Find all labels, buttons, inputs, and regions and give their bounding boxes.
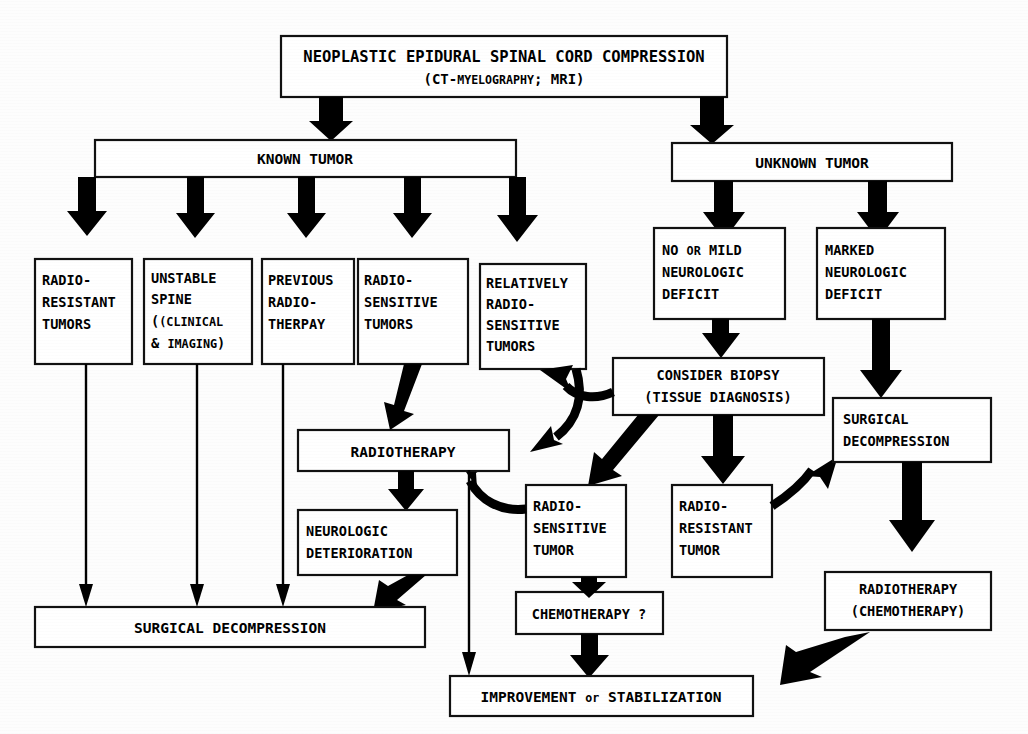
arrow-root-to-known [309, 97, 353, 141]
mid-sens-line1: RADIO- [533, 498, 582, 514]
box4-line1: RADIO- [364, 272, 413, 288]
box3-line3: THERPAY [268, 316, 326, 332]
arrow-biopsy-to-mid-sensitive [588, 415, 659, 486]
radiotherapy-label: RADIOTHERAPY [351, 444, 456, 460]
flowchart-page: NEOPLASTIC EPIDURAL SPINAL CORD COMPRESS… [0, 0, 1028, 734]
arrow-marked-to-surgical [860, 319, 902, 398]
flowchart-canvas: NEOPLASTIC EPIDURAL SPINAL CORD COMPRESS… [0, 0, 1028, 734]
curved-arrow-resistant-to-surgical [772, 456, 838, 506]
mid-sens-line2: SENSITIVE [533, 520, 607, 536]
arrow-biopsy-to-mid-resistant [701, 415, 745, 484]
mid-sens-line3: TUMOR [533, 542, 575, 558]
box4-line2: SENSITIVE [364, 294, 438, 310]
deterioration-line1: NEUROLOGIC [306, 523, 388, 539]
box-improvement-stabilization: IMPROVEMENT or STABILIZATION [450, 676, 753, 716]
box5-line4: TUMORS [486, 338, 535, 354]
arrow-radiochemo-to-improvement [780, 632, 870, 685]
box-relatively-radio-sensitive-tumors: RELATIVELY RADIO- SENSITIVE TUMORS [480, 264, 586, 369]
curved-arrow-relatively-sensitive-down [530, 369, 579, 452]
box-mid-radio-resistant-tumor: RADIO- RESISTANT TUMOR [672, 485, 772, 577]
box-surgical-decompression-right: SURGICAL DECOMPRESSION [833, 398, 991, 462]
arrow-root-to-unknown [690, 97, 734, 144]
box-marked-deficit: MARKED NEUROLOGIC DEFICIT [817, 228, 945, 319]
box3-line1: PREVIOUS [268, 272, 333, 288]
box1-line2: RESISTANT [42, 294, 116, 310]
arrow-right-surgical-to-radiochemo [889, 462, 935, 552]
right-surgical-line1: SURGICAL [843, 411, 908, 427]
root-title-line1: NEOPLASTIC EPIDURAL SPINAL CORD COMPRESS… [303, 48, 704, 66]
arrows-known-to-children [67, 177, 538, 242]
radiochemo-line2: (CHEMOTHERAPY) [851, 603, 966, 619]
box7-line2: NEUROLOGIC [825, 264, 907, 280]
box1-line1: RADIO- [42, 272, 91, 288]
box-no-or-mild-deficit: NO OR MILD NEUROLOGIC DEFICIT [654, 228, 785, 319]
biopsy-line2: (TISSUE DIAGNOSIS) [644, 389, 791, 405]
box-radio-resistant-tumors: RADIO- RESISTANT TUMORS [35, 259, 132, 364]
root-node: NEOPLASTIC EPIDURAL SPINAL CORD COMPRESS… [281, 36, 727, 97]
right-surgical-line2: DECOMPRESSION [843, 433, 949, 449]
box-consider-biopsy: CONSIDER BIOPSY (TISSUE DIAGNOSIS) [613, 358, 824, 415]
mid-res-line3: TUMOR [679, 542, 721, 558]
box2-line4: & IMAGING) [151, 335, 225, 351]
known-tumor-label: KNOWN TUMOR [257, 151, 353, 167]
thin-arrow-relatively-sensitive-to-improvement [462, 470, 476, 676]
radiochemo-line1: RADIOTHERAPY [859, 581, 958, 597]
box2-line3: ((CLINICAL [151, 313, 223, 329]
box-mid-radio-sensitive-tumor: RADIO- SENSITIVE TUMOR [526, 485, 626, 577]
box-radio-sensitive-tumors: RADIO- SENSITIVE TUMORS [358, 259, 468, 364]
box-radiotherapy: RADIOTHERAPY [298, 430, 509, 471]
box-chemotherapy-question: CHEMOTHERAPY ? [516, 592, 663, 634]
improvement-label: IMPROVEMENT or STABILIZATION [481, 689, 722, 705]
surgical-decompression-label: SURGICAL DECOMPRESSION [134, 620, 326, 636]
box3-line2: RADIO- [268, 294, 317, 310]
known-tumor-bar: KNOWN TUMOR [95, 140, 516, 177]
unknown-tumor-label: UNKNOWN TUMOR [755, 155, 869, 171]
arrow-deficit-to-biopsy [702, 319, 740, 358]
arrow-chemotherapy-to-improvement [570, 634, 609, 678]
thin-arrows-to-surgical-decompression [79, 364, 290, 607]
box7-line1: MARKED [825, 242, 874, 258]
deterioration-line2: DETERIORATION [306, 545, 412, 561]
box-neurologic-deterioration: NEUROLOGIC DETERIORATION [298, 510, 457, 575]
box5-line3: SENSITIVE [486, 317, 560, 333]
box2-line1: UNSTABLE [151, 270, 216, 286]
box-previous-radiotherapy: PREVIOUS RADIO- THERPAY [262, 259, 354, 364]
box1-line3: TUMORS [42, 316, 91, 332]
box-unstable-spine: UNSTABLE SPINE ((CLINICAL & IMAGING) [144, 259, 252, 364]
box5-line1: RELATIVELY [486, 275, 569, 291]
box7-line3: DEFICIT [825, 286, 882, 302]
box4-line3: TUMORS [364, 316, 413, 332]
mid-res-line2: RESISTANT [679, 520, 753, 536]
box6-line2: NEUROLOGIC [662, 264, 744, 280]
box-surgical-decompression-bottom: SURGICAL DECOMPRESSION [35, 607, 425, 647]
root-title-line2: (CT-MYELOGRAPHY; MRI) [423, 71, 584, 87]
box6-line1: NO OR MILD [662, 242, 742, 258]
arrow-radiotherapy-to-deterioration [388, 471, 424, 511]
unknown-tumor-bar: UNKNOWN TUMOR [672, 143, 952, 181]
chemotherapy-label: CHEMOTHERAPY ? [532, 606, 647, 622]
biopsy-line1: CONSIDER BIOPSY [657, 367, 781, 383]
arrow-box4-to-radiotherapy [384, 364, 422, 430]
mid-res-line1: RADIO- [679, 498, 728, 514]
box6-line3: DEFICIT [662, 286, 719, 302]
box-radiotherapy-chemotherapy: RADIOTHERAPY (CHEMOTHERAPY) [825, 572, 991, 630]
box5-line2: RADIO- [486, 296, 535, 312]
box2-line2: SPINE [151, 291, 192, 307]
